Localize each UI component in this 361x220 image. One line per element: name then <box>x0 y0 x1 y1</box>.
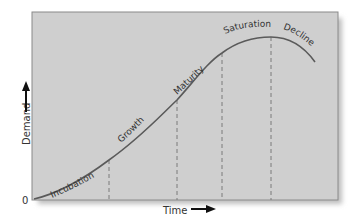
life-cycle-diagram: Incubation Growth Maturity Saturation De… <box>0 0 361 220</box>
origin-label: 0 <box>22 195 28 206</box>
arrow-right-icon <box>191 205 216 213</box>
x-axis-label: Time <box>162 205 187 216</box>
chart-panel <box>32 12 338 200</box>
